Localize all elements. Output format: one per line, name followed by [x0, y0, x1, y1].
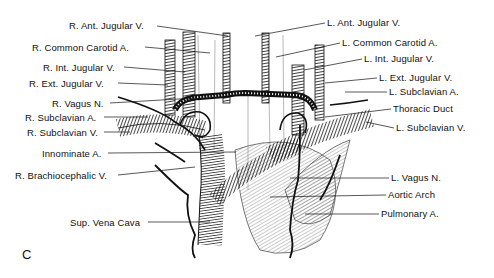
l-int-jugular-vein	[292, 65, 304, 135]
label-sup-vena-cava: Sup. Vena Cava	[70, 217, 140, 228]
label-pulmonary-a: Pulmonary A.	[381, 208, 439, 219]
label-r-common-carotid-a: R. Common Carotid A.	[32, 42, 129, 53]
label-l-subclavian-v: L. Subclavian V.	[396, 122, 465, 133]
label-r-subclavian-v: R. Subclavian V.	[27, 127, 98, 138]
anatomy-figure: R. Ant. Jugular V. R. Common Carotid A. …	[0, 0, 494, 278]
label-r-ant-jugular-v: R. Ant. Jugular V.	[69, 20, 144, 31]
label-r-ext-jugular-v: R. Ext. Jugular V.	[29, 78, 104, 89]
r-ext-jugular-vein	[165, 40, 175, 115]
r-int-jugular-vein	[183, 32, 195, 117]
label-l-ant-jugular-v: L. Ant. Jugular V.	[327, 17, 400, 28]
label-l-vagus-n: L. Vagus N.	[391, 172, 441, 183]
label-l-common-carotid-a: L. Common Carotid A.	[342, 37, 437, 48]
panel-letter: C	[22, 247, 31, 262]
label-l-ext-jugular-v: L. Ext. Jugular V.	[379, 72, 452, 83]
label-r-vagus-n: R. Vagus N.	[52, 98, 104, 109]
label-l-subclavian-a: L. Subclavian A.	[389, 86, 459, 97]
label-r-subclavian-a: R. Subclavian A.	[25, 112, 96, 123]
label-r-int-jugular-v: R. Int. Jugular V.	[43, 62, 115, 73]
superior-vena-cava	[210, 135, 213, 245]
label-r-brachiocephalic-v: R. Brachiocephalic V.	[15, 170, 107, 181]
label-innominate-a: Innominate A.	[42, 148, 101, 159]
label-l-int-jugular-v: L. Int. Jugular V.	[364, 53, 434, 64]
label-thoracic-duct: Thoracic Duct	[393, 103, 453, 114]
label-aortic-arch: Aortic Arch	[388, 189, 435, 200]
